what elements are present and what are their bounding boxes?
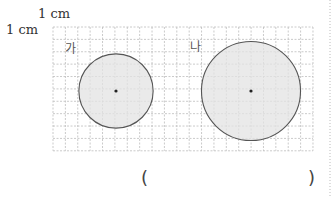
grid-figure: 가나	[0, 0, 332, 197]
center-point	[114, 89, 117, 92]
circle-label: 가	[65, 42, 76, 56]
answer-close-paren: )	[308, 167, 315, 188]
circle-label: 나	[190, 40, 201, 54]
answer-blank[interactable]	[155, 170, 305, 190]
center-point	[249, 89, 252, 92]
answer-open-paren: (	[141, 167, 148, 188]
